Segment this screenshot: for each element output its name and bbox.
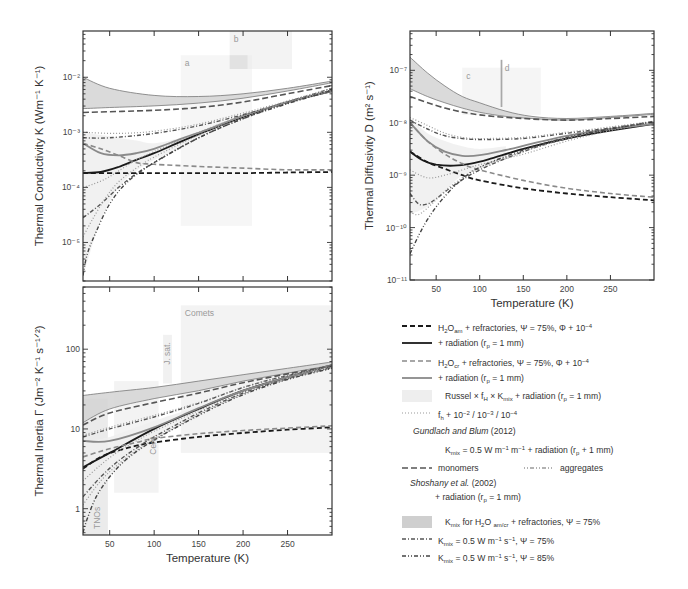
x-tick-label: 150	[192, 539, 206, 549]
x-tick-label: 100	[473, 284, 487, 294]
region-label: TNOs	[92, 507, 102, 529]
y-axis-label: Thermal Conductivity K (Wm⁻¹ K⁻¹)	[33, 65, 45, 246]
legend-swatch-icon	[400, 532, 434, 546]
legend-label: Kmix = 0.5 W m−1 s−1, Ψ = 85%	[438, 549, 554, 568]
y-tick-label: 1	[75, 504, 80, 514]
legend-label: Shoshany et al. (2002)	[410, 476, 496, 490]
legend-label: Gundlach and Blum (2012)	[413, 424, 516, 438]
legend-label: monomers	[438, 461, 479, 475]
y-tick-label: 100	[66, 344, 80, 354]
legend-swatch-icon	[400, 515, 434, 529]
legend-label: aggregates	[560, 461, 603, 475]
region-shade	[230, 55, 248, 69]
y-axis-label: Thermal Diffusivity D (m² s⁻¹)	[363, 81, 375, 230]
legend-label: + radiation (rp = 1 mm)	[435, 490, 521, 507]
legend-label: + radiation (rp = 1 mm)	[438, 336, 524, 353]
region-label: a	[185, 58, 190, 68]
region-label: Comets	[185, 308, 214, 318]
region-label: b	[234, 34, 239, 44]
x-axis-label: Temperature (K)	[490, 297, 573, 309]
legend-swatch-icon	[400, 319, 434, 333]
y-tick-label: 10	[71, 424, 81, 434]
x-tick-label: 50	[105, 539, 115, 549]
x-tick-label: 50	[431, 284, 441, 294]
y-tick-label: 10⁻⁸	[389, 118, 407, 128]
y-tick-label: 10⁻⁹	[389, 170, 407, 180]
x-tick-label: 200	[236, 539, 250, 549]
legend-swatch-icon	[400, 354, 434, 368]
legend-swatch-icon	[400, 406, 434, 420]
x-tick-label: 200	[560, 284, 574, 294]
legend-swatch-icon	[400, 549, 434, 563]
region-label: Cent.	[148, 434, 158, 454]
legend-label: + radiation (rp = 1 mm)	[438, 371, 524, 388]
legend-swatch-icon	[522, 461, 556, 475]
figure: ab10⁻²10⁻³10⁻⁴10⁻⁵Thermal Conductivity K…	[0, 0, 688, 589]
region-label: c	[466, 71, 471, 81]
legend-label: Kmix = 0.5 W m−1 m−1 + radiation (rp + 1…	[445, 441, 613, 460]
legend-swatch-icon	[400, 389, 434, 403]
panel-thermal-conductivity: ab10⁻²10⁻³10⁻⁴10⁻⁵Thermal Conductivity K…	[33, 31, 332, 281]
x-tick-label: 250	[280, 539, 294, 549]
region-comets	[181, 305, 332, 453]
x-tick-label: 150	[516, 284, 530, 294]
legend-swatch-icon	[400, 336, 434, 350]
legend-label: fh + 10−2 / 10−3 / 10−4	[438, 406, 517, 425]
y-tick-label: 10⁻³	[63, 127, 80, 137]
panel-thermal-diffusivity: cd5010015020025010⁻⁷10⁻⁸10⁻⁹10⁻¹⁰10⁻¹¹Te…	[363, 31, 654, 309]
y-tick-label: 10⁻¹⁰	[386, 223, 407, 233]
region-label: d	[505, 63, 510, 73]
x-tick-label: 250	[603, 284, 617, 294]
y-tick-label: 10⁻⁴	[62, 182, 80, 192]
y-tick-label: 10⁻¹¹	[387, 275, 407, 285]
legend-label: Russel × fH × Kmix + radiation (rp = 1 m…	[445, 389, 601, 406]
y-tick-label: 10⁻²	[63, 72, 80, 82]
x-axis-label: Temperature (K)	[166, 552, 249, 564]
y-tick-label: 10⁻⁷	[389, 65, 407, 75]
legend-label: Kmix for H2O am/cr + refractories, Ψ = 7…	[445, 515, 600, 532]
legend-swatch-icon	[400, 371, 434, 385]
region-label: J. sat.	[162, 342, 172, 365]
y-axis-label: Thermal Inertia Γ (Jm⁻² K⁻¹ s⁻¹ᐟ²)	[33, 325, 45, 496]
legend-swatch-icon	[400, 461, 438, 475]
panel-thermal-inertia: CometsJ. sat.Cent.TNOs501001502002501001…	[33, 287, 332, 564]
region-d	[501, 60, 503, 107]
y-tick-label: 10⁻⁵	[62, 237, 80, 247]
x-tick-label: 100	[147, 539, 161, 549]
